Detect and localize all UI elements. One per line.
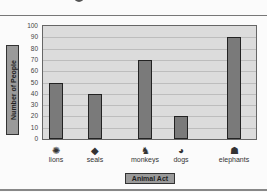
seal-icon: ◆ bbox=[88, 145, 102, 156]
category-label: elephants bbox=[209, 156, 259, 163]
bar-seals bbox=[88, 94, 102, 139]
y-tick-label: 50 bbox=[22, 79, 38, 87]
y-tick-label: 10 bbox=[22, 124, 38, 132]
monkey-icon: ♞ bbox=[138, 145, 152, 156]
x-axis-label: Animal Act bbox=[125, 173, 175, 184]
elephant-icon: ☗ bbox=[227, 145, 241, 156]
y-axis-label-box: Number of People bbox=[6, 45, 19, 135]
y-tick-label: 40 bbox=[22, 90, 38, 98]
bar-dogs bbox=[174, 116, 188, 139]
category-label: dogs bbox=[156, 156, 206, 163]
gridline bbox=[43, 37, 256, 38]
y-tick-label: 60 bbox=[22, 67, 38, 75]
bar-lions bbox=[49, 83, 63, 140]
lion-icon: ✺ bbox=[49, 145, 63, 156]
y-axis-label: Number of People bbox=[9, 60, 16, 120]
decorative-blob bbox=[74, 0, 84, 2]
y-tick-label: 80 bbox=[22, 45, 38, 53]
bar-monkeys bbox=[138, 60, 152, 139]
dog-icon: ◕ bbox=[174, 145, 188, 156]
y-tick-label: 70 bbox=[22, 56, 38, 64]
category-label: seals bbox=[70, 156, 120, 163]
bottom-divider bbox=[0, 189, 267, 191]
gridline bbox=[43, 49, 256, 50]
y-tick-label: 90 bbox=[22, 33, 38, 41]
top-divider bbox=[0, 15, 267, 16]
bar-elephants bbox=[227, 37, 241, 139]
y-tick-label: 100 bbox=[22, 22, 38, 30]
y-tick-label: 20 bbox=[22, 112, 38, 120]
y-tick-label: 0 bbox=[22, 135, 38, 143]
plot-area bbox=[42, 25, 257, 140]
y-tick-label: 30 bbox=[22, 101, 38, 109]
